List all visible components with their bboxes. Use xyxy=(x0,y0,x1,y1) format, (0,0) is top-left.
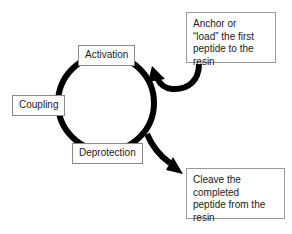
cycle-ring xyxy=(58,55,154,151)
cycle-stage-coupling[interactable]: Coupling xyxy=(12,95,65,116)
entry-arrow xyxy=(148,64,199,89)
diagram-canvas: Activation Coupling Deprotection Anchor … xyxy=(0,0,292,234)
cycle-stage-activation[interactable]: Activation xyxy=(78,45,135,66)
note-cleave-peptide: Cleave the completed peptide from the re… xyxy=(186,168,285,219)
note-anchor-load: Anchor or “load” the first peptide to th… xyxy=(186,12,276,63)
exit-arrow xyxy=(147,134,183,174)
cycle-stage-deprotection[interactable]: Deprotection xyxy=(72,143,143,164)
